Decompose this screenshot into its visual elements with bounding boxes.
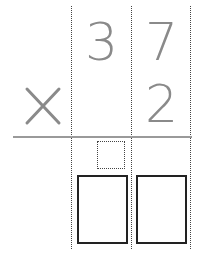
multiply-sign-icon <box>24 86 62 126</box>
multiplier-ones-digit: 2 <box>132 78 191 130</box>
answer-ones-box[interactable] <box>136 175 187 244</box>
carry-input-box[interactable] <box>97 141 125 169</box>
answer-tens-box[interactable] <box>77 175 128 244</box>
multiplicand-ones-digit: 7 <box>132 16 191 68</box>
answer-rule-line <box>13 136 192 138</box>
multiplicand-tens-digit: 3 <box>72 16 131 68</box>
